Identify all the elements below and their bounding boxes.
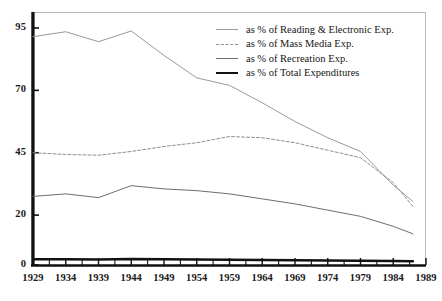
legend-swatch-thick-line-icon — [216, 68, 238, 78]
series-line — [33, 186, 413, 234]
y-tick-label: 70 — [0, 83, 26, 94]
series-line — [33, 137, 413, 207]
legend-item-mass-media: as % of Mass Media Exp. — [216, 37, 430, 52]
legend-label: as % of Mass Media Exp. — [246, 38, 354, 49]
legend-swatch-line-icon — [216, 53, 238, 63]
legend-swatch-dashed-line-icon — [216, 39, 238, 49]
legend-swatch-line-icon — [216, 24, 238, 34]
legend-label: as % of Reading & Electronic Exp. — [246, 24, 394, 35]
legend-label: as % of Total Expenditures — [246, 67, 359, 78]
y-tick-label: 45 — [0, 146, 26, 157]
legend-label: as % of Recreation Exp. — [246, 53, 348, 64]
legend-item-total-expenditures: as % of Total Expenditures — [216, 66, 430, 81]
series-line — [33, 259, 413, 261]
y-tick-label: 20 — [0, 208, 26, 219]
y-tick-label: 95 — [0, 21, 26, 32]
chart-legend: as % of Reading & Electronic Exp. as % o… — [216, 22, 430, 80]
y-tick-label: 0 — [0, 258, 26, 269]
legend-item-recreation: as % of Recreation Exp. — [216, 51, 430, 66]
legend-item-reading-electronic: as % of Reading & Electronic Exp. — [216, 22, 430, 37]
line-chart: 020457095 192919341939194419491954195919… — [0, 0, 442, 301]
x-tick-label: 1989 — [406, 272, 442, 283]
